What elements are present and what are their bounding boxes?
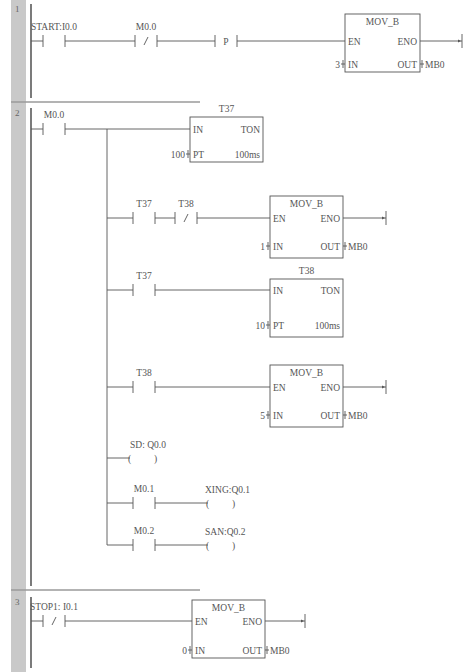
pin-value: 1 — [260, 242, 265, 252]
pin-pt: PT — [193, 150, 204, 160]
output-coil[interactable]: ()SAN:Q0.2 — [155, 527, 246, 552]
network-number: 3 — [15, 597, 20, 607]
contact-slash — [52, 617, 56, 625]
rung: T38MOV_BENIN5ENOOUTMB0 — [107, 365, 386, 427]
no-contact[interactable]: T38 — [133, 368, 155, 393]
rung: STOP1: I0.1MOV_BENIN0ENOOUTMB0 — [30, 600, 305, 658]
pin-out: OUT — [320, 411, 340, 421]
pin-value: MB0 — [348, 411, 368, 421]
pin-out: OUT — [242, 646, 262, 656]
pin-value: 100 — [171, 150, 186, 160]
pin-pt: PT — [273, 321, 284, 331]
no-contact[interactable]: T37 — [133, 271, 155, 296]
pin-value: 5 — [260, 411, 265, 421]
pin-in: IN — [193, 125, 203, 135]
mov-block[interactable]: MOV_BENIN1ENOOUTMB0 — [260, 196, 386, 258]
pin-out: OUT — [397, 60, 417, 70]
coil-label: SD: Q0.0 — [130, 440, 166, 450]
pin-eno: ENO — [397, 37, 417, 47]
contact-slash — [184, 214, 188, 222]
block-title: MOV_B — [366, 17, 399, 27]
coil-label: XING:Q0.1 — [205, 485, 250, 495]
network-2: 2M0.0T37INPT100TON100msT37T38MOV_BENIN1E… — [11, 104, 386, 590]
edge-letter: P — [223, 37, 228, 47]
rung: T37INPT100TON100ms — [107, 104, 263, 162]
rung: T37T38MOV_BENIN1ENOOUTMB0 — [107, 196, 386, 258]
pin-value: 3 — [335, 60, 340, 70]
no-contact[interactable]: M0.0 — [43, 110, 65, 135]
contact-label: START:I0.0 — [31, 22, 77, 32]
coil-right-paren: ) — [154, 454, 157, 465]
output-coil[interactable]: ()SD: Q0.0 — [107, 440, 166, 465]
output-coil[interactable]: ()XING:Q0.1 — [155, 485, 250, 510]
contact-label: T37 — [136, 271, 152, 281]
timer-block[interactable]: T38INPT10TON100ms — [256, 266, 344, 337]
rung: T37T38INPT10TON100ms — [107, 266, 343, 337]
contact-label: T38 — [136, 368, 152, 378]
block-title: MOV_B — [290, 368, 323, 378]
pin-en: EN — [195, 617, 208, 627]
contact-label: T38 — [178, 199, 194, 209]
network-3: 3STOP1: I0.1MOV_BENIN0ENOOUTMB0 — [15, 597, 305, 668]
coil-left-paren: ( — [128, 454, 131, 465]
network-1: 1START:I0.0M0.0PMOV_BENIN3ENOOUTMB0 — [11, 4, 462, 102]
mov-block[interactable]: MOV_BENIN3ENOOUTMB0 — [335, 14, 462, 72]
pin-value: MB0 — [270, 646, 290, 656]
end-arrow-icon — [301, 620, 304, 623]
rung: M0.1()XING:Q0.1 — [107, 484, 250, 510]
ladder-diagram: 1START:I0.0M0.0PMOV_BENIN3ENOOUTMB02M0.0… — [0, 0, 475, 672]
end-arrow-icon — [382, 217, 385, 220]
pin-value: 0 — [182, 646, 187, 656]
nc-contact[interactable]: STOP1: I0.1 — [30, 602, 78, 627]
mov-block[interactable]: MOV_BENIN0ENOOUTMB0 — [182, 600, 305, 658]
end-arrow-icon — [458, 40, 461, 43]
nc-contact[interactable]: T38 — [175, 199, 197, 224]
contact-label: M0.0 — [136, 22, 157, 32]
rung: ()SD: Q0.0 — [107, 440, 166, 465]
pin-en: EN — [273, 383, 286, 393]
timer-block[interactable]: T37INPT100TON100ms — [171, 104, 263, 162]
contact-label: M0.1 — [134, 484, 155, 494]
pin-100ms: 100ms — [235, 150, 261, 160]
pin-en: EN — [348, 37, 361, 47]
pin-en: EN — [273, 214, 286, 224]
pin-eno: ENO — [242, 617, 262, 627]
mov-block[interactable]: MOV_BENIN5ENOOUTMB0 — [260, 365, 386, 427]
block-title: T38 — [299, 266, 315, 276]
network-number: 1 — [15, 4, 20, 14]
nc-contact[interactable]: M0.0 — [135, 22, 157, 47]
pin-in: IN — [195, 646, 205, 656]
pin-ton: TON — [321, 286, 340, 296]
rung: START:I0.0M0.0PMOV_BENIN3ENOOUTMB0 — [31, 14, 462, 72]
coil-right-paren: ) — [232, 499, 235, 510]
no-contact[interactable]: T37 — [133, 199, 155, 224]
no-contact[interactable]: M0.1 — [133, 484, 155, 509]
positive-edge-contact[interactable]: P — [215, 35, 237, 47]
no-contact[interactable]: M0.2 — [133, 526, 155, 551]
coil-label: SAN:Q0.2 — [205, 527, 246, 537]
contact-slash — [144, 37, 148, 45]
pin-value: MB0 — [425, 60, 445, 70]
pin-in: IN — [273, 286, 283, 296]
contact-label: T37 — [136, 199, 152, 209]
block-title: MOV_B — [290, 199, 323, 209]
pin-ton: TON — [241, 125, 260, 135]
rung: M0.2()SAN:Q0.2 — [107, 526, 246, 552]
contact-label: STOP1: I0.1 — [30, 602, 78, 612]
pin-100ms: 100ms — [315, 321, 341, 331]
contact-label: M0.0 — [44, 110, 65, 120]
pin-value: 10 — [256, 321, 266, 331]
no-contact[interactable]: START:I0.0 — [31, 22, 77, 47]
pin-eno: ENO — [320, 383, 340, 393]
network-number: 2 — [15, 108, 20, 118]
coil-left-paren: ( — [206, 541, 209, 552]
contact-label: M0.2 — [134, 526, 155, 536]
pin-in: IN — [348, 60, 358, 70]
pin-in: IN — [273, 411, 283, 421]
pin-in: IN — [273, 242, 283, 252]
end-arrow-icon — [382, 386, 385, 389]
network-gutter — [11, 0, 26, 672]
block-title: T37 — [219, 104, 235, 114]
coil-left-paren: ( — [206, 499, 209, 510]
pin-eno: ENO — [320, 214, 340, 224]
